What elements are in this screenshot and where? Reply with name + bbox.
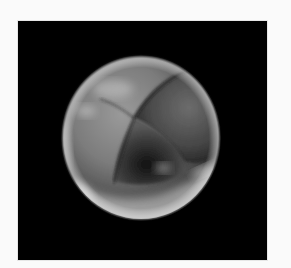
embryo-photo [18,21,267,260]
image-frame [0,0,291,268]
embryo-illustration [18,21,267,260]
